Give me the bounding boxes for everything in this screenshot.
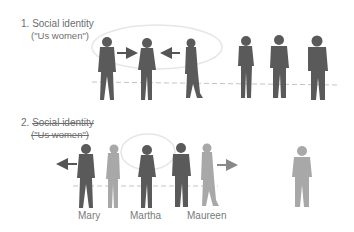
panel2-title: Social identity bbox=[32, 117, 94, 128]
person-figure-mary bbox=[77, 144, 95, 208]
panel1-number: 1. bbox=[21, 18, 29, 29]
person-figure bbox=[270, 35, 289, 98]
person-figure bbox=[185, 39, 203, 99]
person-figure bbox=[238, 36, 254, 98]
panel2-heading: 2. Social identity bbox=[21, 118, 94, 128]
person-figure bbox=[138, 38, 156, 100]
ground-line bbox=[92, 82, 340, 85]
person-figure-faded bbox=[201, 144, 219, 207]
person-figure-martha bbox=[138, 145, 156, 208]
person-figure-faded bbox=[292, 146, 312, 207]
panel1-subtitle: ("Us women") bbox=[31, 31, 89, 41]
person-figure bbox=[308, 36, 328, 101]
panel1-title: Social identity bbox=[32, 18, 94, 29]
person-figure-faded bbox=[106, 145, 120, 209]
name-label-martha: Martha bbox=[130, 211, 161, 221]
panel2-subtitle: ("Us women") bbox=[31, 130, 89, 140]
panel2-number: 2. bbox=[21, 117, 29, 128]
name-label-maureen: Maureen bbox=[187, 211, 226, 221]
panel1-heading: 1. Social identity bbox=[21, 19, 94, 29]
person-figure bbox=[98, 37, 116, 100]
name-label-mary: Mary bbox=[78, 211, 100, 221]
